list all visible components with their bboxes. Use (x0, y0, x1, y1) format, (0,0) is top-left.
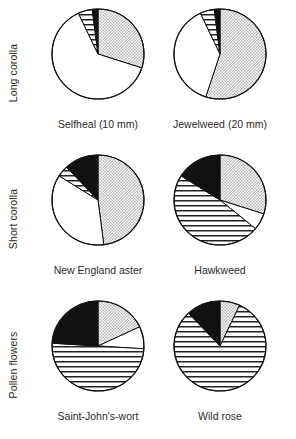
pie-caption-saint-johns-wort: Saint-John's-wort (36, 410, 160, 422)
pie-svg (172, 296, 268, 408)
pie-caption-hawkweed: Hawkweed (158, 264, 282, 276)
pie-caption-jewelweed: Jewelweed (20 mm) (158, 118, 282, 130)
pie-chart-jewelweed (172, 4, 268, 116)
pie-svg (172, 150, 268, 262)
pie-caption-new-england-aster: New England aster (36, 264, 160, 276)
pie-slice-black (52, 301, 98, 346)
pie-chart-wild-rose (172, 296, 268, 408)
pie-cell-selfheal: Selfheal (10 mm) (36, 0, 160, 146)
pie-svg (172, 4, 268, 116)
pie-chart-saint-johns-wort (50, 296, 146, 408)
pie-svg (50, 4, 146, 116)
pie-chart-new-england-aster (50, 150, 146, 262)
pie-svg (50, 150, 146, 262)
pie-cell-hawkweed: Hawkweed (158, 146, 282, 292)
pie-slice-stipple (98, 155, 144, 245)
pie-chart-selfheal (50, 4, 146, 116)
row-label-pollen-flowers: Pollen flowers (0, 292, 26, 438)
pie-cell-new-england-aster: New England aster (36, 146, 160, 292)
pollinator-pie-figure: Long corolla Selfheal (10 mm) (0, 0, 296, 439)
pie-cell-wild-rose: Wild rose (158, 292, 282, 438)
pie-svg (50, 296, 146, 408)
row-label-short-corolla: Short corolla (0, 146, 26, 292)
pie-caption-selfheal: Selfheal (10 mm) (36, 118, 160, 130)
chart-row-long-corolla: Long corolla Selfheal (10 mm) (0, 0, 296, 146)
pie-cell-jewelweed: Jewelweed (20 mm) (158, 0, 282, 146)
chart-row-short-corolla: Short corolla New England aster (0, 146, 296, 292)
pie-caption-wild-rose: Wild rose (158, 410, 282, 422)
row-label-long-corolla: Long corolla (0, 0, 26, 146)
chart-row-pollen-flowers: Pollen flowers Saint-John's-wort (0, 292, 296, 438)
pie-cell-saint-johns-wort: Saint-John's-wort (36, 292, 160, 438)
pie-chart-hawkweed (172, 150, 268, 262)
pie-slice-stripe (52, 343, 144, 391)
